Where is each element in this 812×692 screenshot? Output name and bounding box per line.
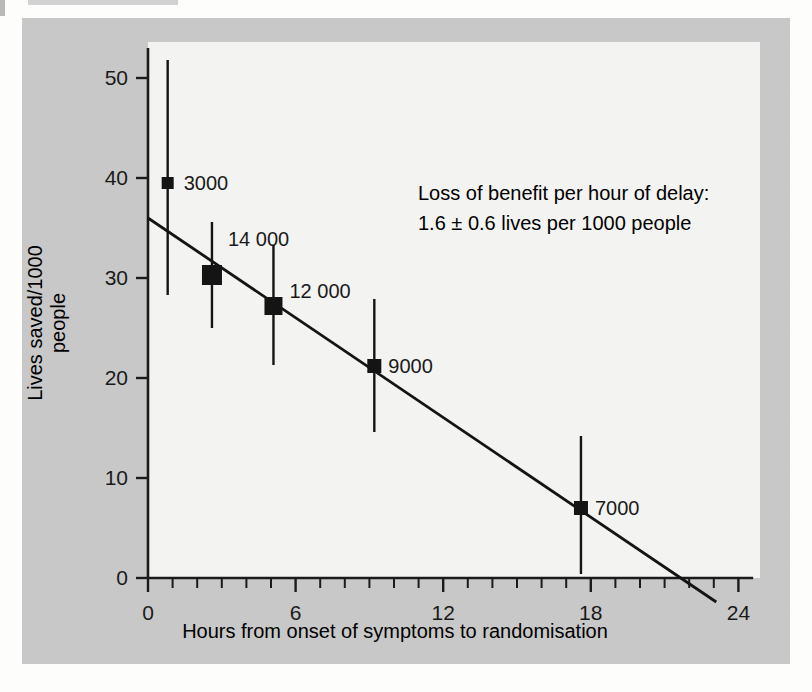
data-point-label-12000: 12 000 xyxy=(289,280,350,302)
data-marker-9000 xyxy=(367,359,381,373)
y-tick-label-10: 10 xyxy=(105,466,128,489)
regression-fit-line xyxy=(148,218,716,602)
data-marker-7000 xyxy=(574,501,588,515)
annotation-line-2: 1.6 ± 0.6 lives per 1000 people xyxy=(418,208,709,238)
data-point-label-7000: 7000 xyxy=(595,497,640,519)
y-tick-label-20: 20 xyxy=(105,366,128,389)
x-axis-title: Hours from onset of symptoms to randomis… xyxy=(0,620,790,643)
y-tick-label-50: 50 xyxy=(105,66,128,89)
y-axis-title-text: Lives saved/1000 people xyxy=(24,245,69,401)
annotation-block: Loss of benefit per hour of delay: 1.6 ±… xyxy=(418,178,709,238)
data-marker-3000 xyxy=(162,177,174,189)
y-tick-label-40: 40 xyxy=(105,166,128,189)
data-point-label-9000: 9000 xyxy=(388,355,433,377)
y-tick-label-30: 30 xyxy=(105,266,128,289)
data-point-label-3000: 3000 xyxy=(184,172,229,194)
data-marker-14000 xyxy=(202,265,222,285)
y-tick-label-0: 0 xyxy=(116,566,128,589)
data-point-label-14000: 14 000 xyxy=(228,228,289,250)
x-axis-title-text: Hours from onset of symptoms to randomis… xyxy=(182,620,608,642)
data-marker-12000 xyxy=(264,297,282,315)
scanned-page: 0102030405006121824300014 00012 00090007… xyxy=(0,0,812,692)
annotation-line-1: Loss of benefit per hour of delay: xyxy=(418,178,709,208)
y-axis-title: Lives saved/1000 people xyxy=(24,213,70,433)
chart-canvas: 0102030405006121824300014 00012 00090007… xyxy=(0,0,812,692)
